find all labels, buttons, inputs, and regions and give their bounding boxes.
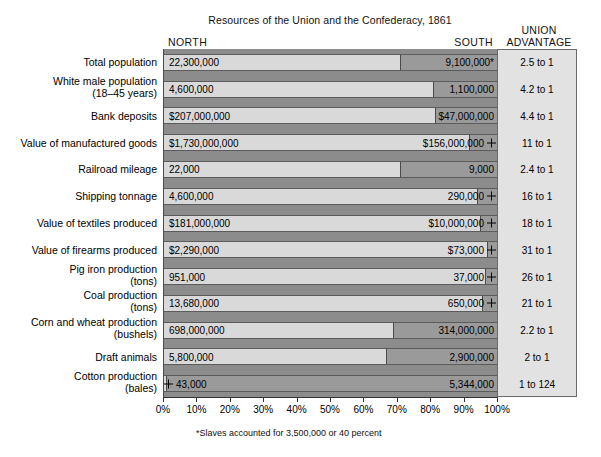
south-value-label: 1,100,000: [450, 84, 495, 95]
north-value-label: 4,600,000: [169, 191, 214, 202]
north-value-label: $2,290,000: [169, 244, 219, 255]
stacked-bar: $1,730,000,000$156,000,000: [164, 134, 498, 151]
south-value-label: 290,000: [448, 191, 484, 202]
category-label-line1: White male population: [0, 75, 157, 87]
axis-tick-mark: [464, 397, 465, 402]
south-segment-tick-icon: [487, 303, 496, 304]
category-label-line1: Cotton production: [0, 370, 157, 382]
union-advantage-value: 2.2 to 1: [498, 325, 576, 336]
south-value-label: $10,000,000: [428, 218, 484, 229]
category-label: Coal production(tons): [0, 289, 157, 313]
north-value-label: 951,000: [169, 271, 205, 282]
category-label-line1: Coal production: [0, 289, 157, 301]
axis-tick-mark: [230, 397, 231, 402]
south-segment-tick-icon: [487, 223, 496, 224]
stacked-bar: 4,600,0001,100,000: [164, 81, 498, 98]
bar-segment-south: [167, 376, 498, 391]
category-label-line1: Pig iron production: [0, 263, 157, 275]
category-label-line2: (bushels): [0, 328, 157, 340]
category-label-line1: Corn and wheat production: [0, 316, 157, 328]
axis-tick-mark: [263, 397, 264, 402]
north-value-label: 698,000,000: [169, 325, 225, 336]
axis-tick-mark: [330, 397, 331, 402]
stacked-bar: 5,800,0002,900,000: [164, 348, 498, 365]
category-label: Draft animals: [0, 351, 157, 363]
axis-tick-mark: [430, 397, 431, 402]
north-segment-tick-icon: [164, 383, 173, 384]
category-label: Cotton production(bales): [0, 370, 157, 394]
south-value-label: 5,344,000: [450, 378, 495, 389]
union-advantage-value: 18 to 1: [498, 218, 576, 229]
axis-tick-mark: [363, 397, 364, 402]
bar-row: 43,0005,344,000: [164, 375, 498, 392]
stacked-bar: 43,0005,344,000: [164, 375, 498, 392]
stacked-bar: 13,680,000650,000: [164, 295, 498, 312]
bar-row: 698,000,000314,000,000: [164, 322, 498, 339]
south-value-label: 37,000: [453, 271, 484, 282]
stacked-bar: $181,000,000$10,000,000: [164, 215, 498, 232]
union-advantage-line2: ADVANTAGE: [497, 36, 581, 48]
south-segment-tick-icon: [487, 142, 496, 143]
chart-title: Resources of the Union and the Confedera…: [163, 14, 497, 26]
column-header-north: NORTH: [168, 36, 207, 48]
column-header-south: SOUTH: [398, 36, 493, 48]
union-advantage-value: 26 to 1: [498, 272, 576, 283]
category-label: Railroad mileage: [0, 163, 157, 175]
category-label: Bank deposits: [0, 110, 157, 122]
north-value-label: 22,000: [169, 164, 200, 175]
footnote: *Slaves accounted for 3,500,000 or 40 pe…: [196, 428, 382, 438]
category-label-line1: Draft animals: [0, 351, 157, 363]
category-label-line2: (bales): [0, 382, 157, 394]
union-advantage-value: 16 to 1: [498, 191, 576, 202]
stacked-bar: 951,00037,000: [164, 268, 498, 285]
bar-row: 22,300,0009,100,000*: [164, 54, 498, 71]
north-value-label: $207,000,000: [169, 110, 230, 121]
category-label-line1: Value of firearms produced: [0, 244, 157, 256]
union-advantage-value: 11 to 1: [498, 138, 576, 149]
bar-row: $1,730,000,000$156,000,000: [164, 134, 498, 151]
plot-area: 22,300,0009,100,000*4,600,0001,100,000$2…: [163, 49, 497, 397]
category-label: Shipping tonnage: [0, 190, 157, 202]
category-label: Pig iron production(tons): [0, 263, 157, 287]
union-advantage-value: 31 to 1: [498, 245, 576, 256]
category-label-line1: Bank deposits: [0, 110, 157, 122]
bar-row: $181,000,000$10,000,000: [164, 215, 498, 232]
stacked-bar: 4,600,000290,000: [164, 188, 498, 205]
union-advantage-value: 4.2 to 1: [498, 84, 576, 95]
bar-row: 5,800,0002,900,000: [164, 348, 498, 365]
axis-tick-mark: [297, 397, 298, 402]
stacked-bar: $2,290,000$73,000: [164, 241, 498, 258]
union-advantage-value: 1 to 124: [498, 379, 576, 390]
south-value-label: $47,000,000: [438, 110, 494, 121]
category-label: Corn and wheat production(bushels): [0, 316, 157, 340]
north-value-label: 13,680,000: [169, 298, 219, 309]
south-segment-tick-icon: [487, 249, 496, 250]
south-value-label: 2,900,000: [450, 351, 495, 362]
union-advantage-column: 2.5 to 14.2 to 14.4 to 111 to 12.4 to 11…: [497, 49, 577, 397]
axis-tick-label: 100%: [477, 404, 517, 415]
north-value-label: 43,000: [176, 378, 207, 389]
north-value-label: 4,600,000: [169, 84, 214, 95]
category-label-line2: (18–45 years): [0, 87, 157, 99]
bar-row: 4,600,0001,100,000: [164, 81, 498, 98]
union-advantage-value: 2.5 to 1: [498, 57, 576, 68]
union-advantage-value: 4.4 to 1: [498, 111, 576, 122]
category-label: White male population(18–45 years): [0, 75, 157, 99]
bar-row: 22,0009,000: [164, 161, 498, 178]
category-label-line1: Value of textiles produced: [0, 217, 157, 229]
stacked-bar: 698,000,000314,000,000: [164, 322, 498, 339]
south-segment-tick-icon: [487, 276, 496, 277]
category-label: Value of textiles produced: [0, 217, 157, 229]
south-value-label: 650,000: [448, 298, 484, 309]
north-value-label: $181,000,000: [169, 218, 230, 229]
union-advantage-value: 2 to 1: [498, 352, 576, 363]
south-segment-tick-icon: [487, 196, 496, 197]
category-label: Value of manufactured goods: [0, 137, 157, 149]
column-header-union-advantage: UNION ADVANTAGE: [497, 24, 581, 48]
axis-tick-mark: [163, 397, 164, 402]
axis-tick-mark: [397, 397, 398, 402]
category-label: Total population: [0, 56, 157, 68]
stacked-bar: $207,000,000$47,000,000: [164, 107, 498, 124]
north-value-label: $1,730,000,000: [169, 137, 239, 148]
category-label-line2: (tons): [0, 301, 157, 313]
